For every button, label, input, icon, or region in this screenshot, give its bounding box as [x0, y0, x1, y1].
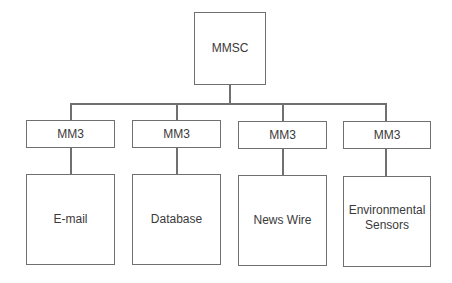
source-connector-2 — [176, 147, 178, 175]
email-label: E-mail — [53, 212, 87, 227]
mmsc-node: MMSC — [194, 12, 266, 85]
mm3-label-4: MM3 — [374, 128, 401, 143]
mm3-label-3: MM3 — [269, 128, 296, 143]
branch-connector-4 — [385, 103, 387, 121]
branch-connector-1 — [70, 103, 72, 121]
branch-connector-2 — [176, 103, 178, 121]
branch-connector-3 — [282, 103, 284, 121]
source-connector-1 — [70, 147, 72, 175]
database-source-node: Database — [132, 174, 221, 265]
mmsc-label: MMSC — [212, 41, 249, 56]
environmental-sensors-source-node: Environmental Sensors — [343, 176, 431, 267]
mm3-node-1: MM3 — [26, 120, 115, 148]
mm3-label-2: MM3 — [163, 127, 190, 142]
source-connector-4 — [385, 148, 387, 176]
bus-connector — [70, 103, 386, 105]
mm3-node-2: MM3 — [132, 120, 221, 148]
environmental-sensors-label: Environmental Sensors — [349, 203, 426, 233]
mm3-node-3: MM3 — [238, 121, 327, 149]
database-label: Database — [151, 212, 202, 227]
mm3-label-1: MM3 — [57, 127, 84, 142]
news-wire-source-node: News Wire — [238, 175, 327, 266]
root-connector — [229, 84, 231, 104]
news-wire-label: News Wire — [253, 213, 311, 228]
source-connector-3 — [282, 148, 284, 176]
email-source-node: E-mail — [26, 174, 115, 265]
mm3-node-4: MM3 — [343, 121, 431, 149]
